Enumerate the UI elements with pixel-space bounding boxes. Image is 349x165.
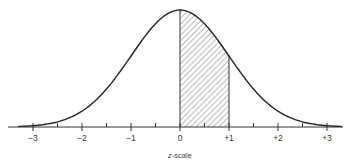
shaded-area-0-to-1 — [180, 10, 229, 127]
x-tick-label: +1 — [224, 133, 234, 143]
hatched-region — [180, 10, 229, 127]
x-axis-title: z-scale — [167, 151, 192, 160]
x-tick-label: +3 — [322, 133, 332, 143]
x-tick-label: −2 — [77, 133, 87, 143]
x-tick-labels: −3−2−10+1+2+3 — [28, 133, 332, 143]
normal-distribution-chart: −3−2−10+1+2+3 z-scale — [0, 0, 349, 165]
x-axis — [8, 123, 343, 131]
x-tick-label: 0 — [178, 133, 183, 143]
x-tick-label: +2 — [273, 133, 283, 143]
x-tick-label: −3 — [28, 133, 38, 143]
x-tick-label: −1 — [126, 133, 136, 143]
